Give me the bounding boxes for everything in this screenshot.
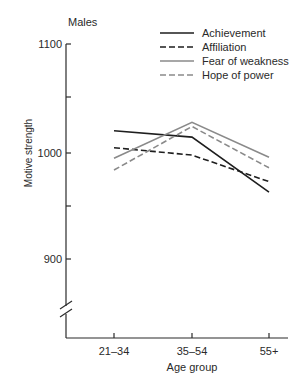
- legend-label: Achievement: [202, 27, 266, 39]
- line-chart: Males 1100 1000 900 Motive strength 21–3…: [0, 0, 303, 383]
- x-tick-label-55plus: 55+: [260, 345, 279, 357]
- series-line-fear-of-weakness: [114, 122, 269, 158]
- chart-title: Males: [68, 16, 98, 28]
- y-tick-label-1100: 1100: [38, 38, 62, 50]
- legend-label: Affiliation: [202, 41, 246, 53]
- legend: AchievementAffiliationFear of weaknessHo…: [160, 27, 289, 81]
- series-layer: [114, 122, 269, 192]
- y-axis-label: Motive strength: [23, 119, 34, 187]
- y-axis: [60, 44, 72, 338]
- y-tick-label-900: 900: [44, 253, 62, 265]
- legend-label: Fear of weakness: [202, 55, 289, 67]
- x-axis: [66, 333, 288, 338]
- x-tick-label-35-54: 35–54: [177, 345, 208, 357]
- x-axis-label: Age group: [167, 361, 218, 373]
- legend-label: Hope of power: [202, 69, 274, 81]
- x-tick-label-21-34: 21–34: [99, 345, 130, 357]
- series-line-achievement: [114, 131, 269, 193]
- y-tick-label-1000: 1000: [38, 147, 62, 159]
